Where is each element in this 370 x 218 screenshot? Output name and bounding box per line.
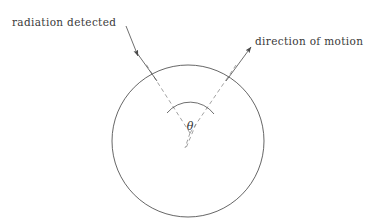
diagram-canvas: θ radiation detected direction of motion xyxy=(0,0,370,218)
physics-diagram: θ radiation detected direction of motion xyxy=(0,0,370,218)
radiation-detected-arrow xyxy=(126,26,138,56)
dashed-line-left xyxy=(156,80,190,133)
direction-of-motion-label: direction of motion xyxy=(255,35,363,47)
direction-of-motion-arrow xyxy=(226,47,251,81)
dashed-line-right-extension xyxy=(226,65,236,80)
radiation-detected-label: radiation detected xyxy=(12,16,116,28)
theta-label: θ xyxy=(187,120,194,133)
body-circle xyxy=(112,65,264,217)
